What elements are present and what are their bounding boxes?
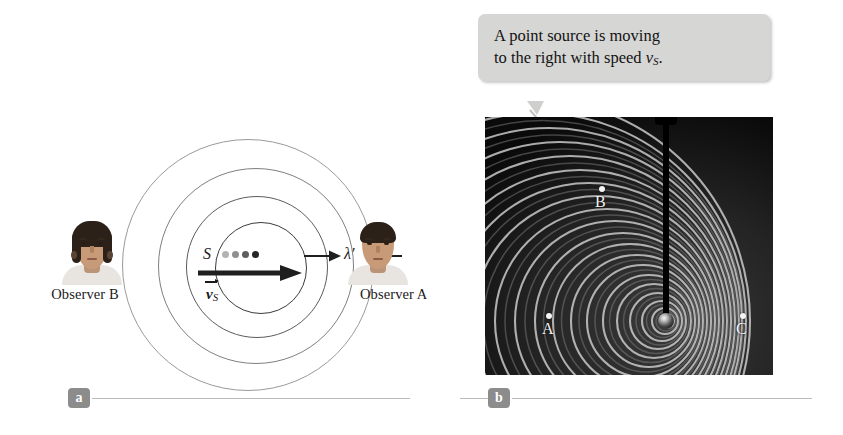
point-label-a: A — [542, 320, 554, 338]
point-source-bead — [658, 313, 674, 329]
panel-tag-b: b — [488, 388, 510, 408]
ripple-wavefronts — [485, 117, 773, 375]
ripple-tank-photo: B A C — [485, 117, 773, 375]
source-position-dot-1 — [222, 251, 229, 258]
callout-line-2-text: to the right with speed — [494, 48, 646, 67]
observer-a-brow-left — [365, 238, 373, 240]
observer-b-brow-right — [97, 238, 105, 240]
observer-a-label: Observer A — [360, 286, 410, 303]
observer-b-earring-left — [71, 251, 77, 259]
observer-b-earring-right — [107, 251, 113, 259]
source-position-dot-3 — [242, 251, 249, 258]
callout-line-1: A point source is moving — [494, 25, 756, 47]
point-marker-c — [740, 313, 746, 319]
observer-b-nose — [90, 246, 94, 253]
observer-a-figure — [346, 219, 410, 285]
source-label: S — [203, 245, 211, 263]
source-position-dot-2 — [232, 251, 239, 258]
photo-inner: B A C — [485, 117, 773, 375]
point-label-b: B — [595, 193, 606, 211]
observer-a-mouth — [373, 258, 383, 260]
callout-line-2: to the right with speed vS. — [494, 47, 756, 69]
callout-speed-symbol: v — [646, 48, 653, 67]
point-marker-a — [546, 313, 552, 319]
callout-tail — [527, 101, 544, 115]
panel-b-rule-right — [512, 398, 812, 399]
source-position-dot-4 — [252, 251, 259, 258]
vibrator-rod — [663, 117, 669, 322]
panel-a-diagram: S vS λ′ — [0, 0, 430, 435]
panel-b-rule-left — [460, 398, 488, 399]
observer-b-eye-right — [98, 242, 103, 245]
observer-b-eye-left — [81, 242, 86, 245]
observer-a-nose — [376, 246, 380, 253]
panel-a-rule — [92, 398, 410, 399]
wavefront-stage: S vS λ′ — [0, 0, 430, 400]
point-label-c: C — [736, 320, 747, 338]
callout-bubble: A point source is moving to the right wi… — [478, 14, 770, 81]
velocity-subscript: S — [213, 291, 219, 303]
observer-a: Observer A — [346, 219, 410, 303]
observer-b-label: Observer B — [46, 286, 124, 303]
observer-b: Observer B — [60, 219, 124, 303]
callout-period: . — [659, 48, 663, 67]
velocity-label: vS — [206, 286, 218, 303]
observer-a-eye-right — [384, 242, 389, 245]
observer-b-mouth — [87, 258, 97, 260]
observer-a-brow-right — [383, 238, 391, 240]
velocity-symbol: v — [206, 286, 213, 302]
observer-a-eye-left — [367, 242, 372, 245]
observer-b-figure — [60, 219, 124, 285]
wavelength-arrow-left — [304, 248, 342, 264]
point-marker-b — [599, 186, 605, 192]
panel-b-photograph: A point source is moving to the right wi… — [430, 0, 843, 435]
panel-tag-a: a — [68, 388, 90, 408]
observer-b-brow-left — [79, 238, 87, 240]
